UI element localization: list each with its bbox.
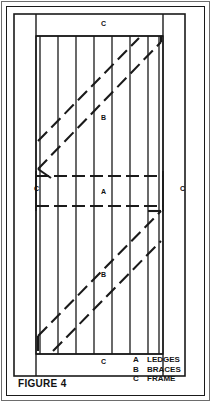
- callout-brace-lower: B: [101, 271, 106, 279]
- legend-key-c: C: [133, 374, 147, 384]
- legend-row-braces: B BRACES: [133, 365, 181, 375]
- legend-key-a: A: [133, 355, 147, 365]
- legend-text-ledges: LEDGES: [147, 355, 180, 365]
- legend-key-b: B: [133, 365, 147, 375]
- legend-row-ledges: A LEDGES: [133, 355, 181, 365]
- callout-frame-bottom: C: [101, 358, 106, 366]
- legend: A LEDGES B BRACES C FRAME: [133, 355, 181, 384]
- legend-text-frame: FRAME: [147, 374, 175, 384]
- callout-frame-left: C: [34, 185, 39, 193]
- figure-page: C C C C A B B A LEDGES B BRACES C FRAME …: [0, 0, 211, 402]
- legend-text-braces: BRACES: [147, 365, 181, 375]
- door-diagram-svg: [6, 6, 205, 396]
- callout-frame-right: C: [180, 185, 185, 193]
- figure-caption: FIGURE 4: [18, 378, 67, 389]
- callout-brace-upper: B: [101, 114, 106, 122]
- legend-row-frame: C FRAME: [133, 374, 181, 384]
- boarded-panel: [36, 36, 163, 354]
- callout-frame-top: C: [101, 20, 106, 28]
- door-construction-drawing: [6, 6, 205, 396]
- callout-ledges: A: [101, 188, 106, 196]
